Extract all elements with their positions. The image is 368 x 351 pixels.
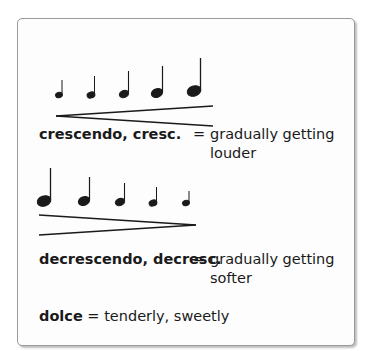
crescendo-figure: [48, 54, 218, 134]
decrescendo-figure: [31, 165, 201, 245]
crescendo-entry: crescendo, cresc. = gradually getting lo…: [39, 125, 181, 144]
decrescendo-hairpin-icon: [39, 215, 196, 235]
quarter-note-icon: [114, 183, 125, 207]
quarter-note-icon: [55, 80, 63, 99]
glossary-box: crescendo, cresc. = gradually getting lo…: [17, 18, 355, 346]
crescendo-definition: gradually getting louder: [210, 125, 368, 163]
quarter-note-icon: [148, 187, 158, 207]
quarter-note-icon: [77, 177, 91, 207]
dolce-term: dolce: [39, 308, 83, 324]
dolce-definition: tenderly, sweetly: [104, 308, 229, 324]
quarter-note-icon: [182, 191, 190, 207]
crescendo-term: crescendo, cresc.: [39, 126, 181, 142]
quarter-note-icon: [150, 66, 164, 99]
decrescendo-definition: gradually getting softer: [210, 250, 368, 288]
crescendo-hairpin-icon: [56, 106, 213, 126]
dolce-entry: dolce = tenderly, sweetly: [39, 307, 229, 326]
quarter-note-icon: [118, 71, 129, 99]
crescendo-notes: [55, 58, 202, 99]
quarter-note-icon: [186, 58, 203, 98]
decrescendo-notes: [36, 168, 190, 208]
quarter-note-icon: [36, 168, 53, 208]
equals-sign: =: [193, 250, 205, 269]
equals-sign: =: [87, 308, 99, 324]
quarter-note-icon: [86, 76, 96, 99]
decrescendo-entry: decrescendo, decresc. = gradually gettin…: [39, 250, 222, 269]
equals-sign: =: [193, 125, 205, 144]
